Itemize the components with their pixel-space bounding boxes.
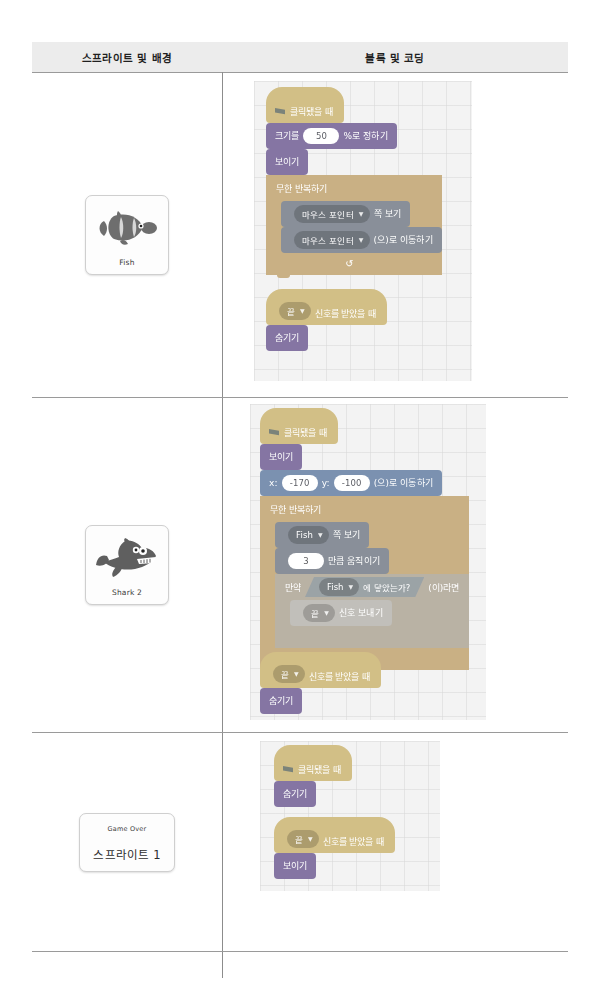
- script-gameover-main[interactable]: 클릭됐을 때 숨기기: [274, 745, 352, 807]
- block-goto-xy[interactable]: x: -170 y: -100 (으)로 이동하기: [260, 470, 442, 496]
- hat-when-flag-clicked[interactable]: 클릭됐을 때: [274, 745, 352, 781]
- chevron-down-icon: ▼: [300, 308, 305, 314]
- broadcast-dropdown[interactable]: 끝 ▼: [287, 830, 319, 848]
- header-blocks-coding: 블록 및 코딩: [222, 42, 568, 72]
- table-row: Shark 2 클릭됐을 때 보이기 x:: [32, 398, 568, 733]
- block-show[interactable]: 보이기: [274, 853, 316, 879]
- sprite-name-label: Fish: [119, 258, 134, 267]
- c-spine: [275, 600, 290, 626]
- sprite-cell: Fish: [32, 73, 222, 397]
- chevron-down-icon: ▼: [348, 584, 353, 590]
- chevron-down-icon: ▼: [318, 532, 323, 538]
- green-flag-icon: [275, 108, 285, 118]
- code-canvas[interactable]: 클릭됐을 때 크기를 50 %로 정하기 보이기 무한 반복하기: [254, 81, 472, 381]
- y-input[interactable]: -100: [334, 475, 370, 491]
- block-forever[interactable]: 무한 반복하기 Fish ▼: [260, 496, 469, 670]
- sprite-cell: Game Over 스프라이트 1: [32, 733, 222, 951]
- block-set-size[interactable]: 크기를 50 %로 정하기: [266, 123, 397, 149]
- hat-when-broadcast-received[interactable]: 끝 ▼ 신호를 받았을 때: [266, 289, 387, 325]
- block-show[interactable]: 보이기: [260, 444, 302, 470]
- block-goto[interactable]: 마우스 포인터 ▼ (으)로 이동하기: [281, 227, 442, 253]
- c-spine: [260, 522, 275, 648]
- table-row: Game Over 스프라이트 1 클릭됐을 때 숨기기: [32, 733, 568, 952]
- forever-footer: ↻: [266, 253, 362, 275]
- if-body: 끝 ▼ 신호 보내기: [290, 600, 392, 626]
- page-root: 스프라이트 및 배경 블록 및 코딩: [0, 0, 600, 982]
- sprite-card-fish[interactable]: Fish: [85, 195, 169, 275]
- chevron-down-icon: ▼: [308, 836, 313, 842]
- green-flag-icon: [269, 429, 279, 439]
- if-footer: [275, 626, 447, 648]
- sprite-code-table: 스프라이트 및 배경 블록 및 코딩: [32, 42, 568, 952]
- if-header: 만약 Fish ▼ 에 닿았는가?: [275, 574, 469, 600]
- code-cell: 클릭됐을 때 보이기 x: -170 y: -100 (으)로 이동하기: [222, 398, 568, 732]
- loop-arrow-icon: ↻: [345, 259, 353, 269]
- block-show[interactable]: 보이기: [266, 149, 308, 175]
- steps-input[interactable]: 3: [288, 553, 324, 569]
- forever-body: 마우스 포인터 ▼ 쪽 보기 마우스 포인터 ▼: [281, 201, 442, 253]
- hat-when-flag-clicked[interactable]: 클릭됐을 때: [260, 408, 338, 444]
- touching-dropdown[interactable]: Fish ▼: [319, 578, 359, 596]
- code-cell: 클릭됐을 때 크기를 50 %로 정하기 보이기 무한 반복하기: [222, 73, 568, 397]
- stage-text: Game Over: [108, 825, 147, 833]
- chevron-down-icon: ▼: [294, 671, 299, 677]
- script-shark-receive[interactable]: 끝 ▼ 신호를 받았을 때 숨기기: [260, 652, 381, 714]
- shark-icon: [95, 535, 159, 581]
- script-fish-main[interactable]: 클릭됐을 때 크기를 50 %로 정하기 보이기 무한 반복하기: [266, 87, 442, 275]
- script-fish-receive[interactable]: 끝 ▼ 신호를 받았을 때 숨기기: [266, 289, 387, 351]
- clownfish-icon: [96, 205, 158, 251]
- block-if-then[interactable]: 만약 Fish ▼ 에 닿았는가?: [275, 574, 469, 648]
- forever-header: 무한 반복하기: [266, 175, 337, 201]
- point-towards-dropdown[interactable]: Fish ▼: [288, 526, 329, 544]
- point-towards-dropdown[interactable]: 마우스 포인터 ▼: [294, 205, 370, 223]
- boolean-touching[interactable]: Fish ▼ 에 닿았는가?: [305, 577, 424, 597]
- green-flag-icon: [283, 766, 293, 776]
- x-input[interactable]: -170: [282, 475, 318, 491]
- script-shark-main[interactable]: 클릭됐을 때 보이기 x: -170 y: -100 (으)로 이동하기: [260, 408, 469, 670]
- chevron-down-icon: ▼: [359, 237, 364, 243]
- block-hide[interactable]: 숨기기: [260, 688, 302, 714]
- broadcast-dropdown[interactable]: 끝 ▼: [273, 665, 305, 683]
- block-hide[interactable]: 숨기기: [266, 325, 308, 351]
- broadcast-dropdown[interactable]: 끝 ▼: [303, 604, 335, 622]
- sprite-card-shark[interactable]: Shark 2: [85, 525, 169, 605]
- size-input[interactable]: 50: [303, 128, 339, 144]
- header-sprite-background: 스프라이트 및 배경: [32, 42, 222, 72]
- code-canvas[interactable]: 클릭됐을 때 숨기기 끝 ▼ 신호를 받았을 때: [260, 741, 440, 891]
- code-cell: 클릭됐을 때 숨기기 끝 ▼ 신호를 받았을 때: [222, 733, 568, 951]
- forever-body: Fish ▼ 쪽 보기 3 만큼 움직이기: [275, 522, 469, 648]
- sprite-cell: Shark 2: [32, 398, 222, 732]
- block-hide[interactable]: 숨기기: [274, 781, 316, 807]
- sprite-name-label: Shark 2: [112, 588, 142, 597]
- block-point-towards[interactable]: 마우스 포인터 ▼ 쪽 보기: [281, 201, 410, 227]
- script-gameover-receive[interactable]: 끝 ▼ 신호를 받았을 때 보이기: [274, 817, 395, 879]
- hat-when-flag-clicked[interactable]: 클릭됐을 때: [266, 87, 344, 123]
- table-header-row: 스프라이트 및 배경 블록 및 코딩: [32, 42, 568, 73]
- forever-header: 무한 반복하기: [260, 496, 331, 522]
- c-spine: [266, 201, 281, 253]
- goto-dropdown[interactable]: 마우스 포인터 ▼: [294, 231, 370, 249]
- hat-when-broadcast-received[interactable]: 끝 ▼ 신호를 받았을 때: [260, 652, 381, 688]
- hat-when-broadcast-received[interactable]: 끝 ▼ 신호를 받았을 때: [274, 817, 395, 853]
- block-point-towards[interactable]: Fish ▼ 쪽 보기: [275, 522, 369, 548]
- chevron-down-icon: ▼: [359, 211, 364, 217]
- block-broadcast[interactable]: 끝 ▼ 신호 보내기: [290, 600, 392, 626]
- broadcast-dropdown[interactable]: 끝 ▼: [279, 302, 311, 320]
- code-canvas[interactable]: 클릭됐을 때 보이기 x: -170 y: -100 (으)로 이동하기: [250, 404, 486, 720]
- table-row: Fish 클릭됐을 때 크기를 50 %로 정하기: [32, 73, 568, 398]
- sprite-card-gameover[interactable]: Game Over 스프라이트 1: [79, 813, 175, 872]
- sprite-name-label: 스프라이트 1: [93, 846, 160, 862]
- chevron-down-icon: ▼: [324, 610, 329, 616]
- block-forever[interactable]: 무한 반복하기 마우스 포인터 ▼: [266, 175, 442, 275]
- block-move-steps[interactable]: 3 만큼 움직이기: [275, 548, 389, 574]
